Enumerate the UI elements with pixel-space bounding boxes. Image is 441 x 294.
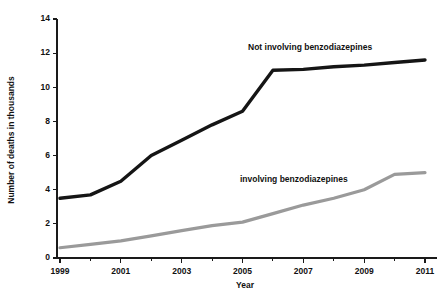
y-axis-tick-label: 12 (41, 47, 51, 57)
y-axis-tick-label: 6 (45, 150, 50, 160)
y-axis-title: Number of deaths in thousands (6, 76, 16, 204)
series-label-involving-benzodiazepines: involving benzodiazepines (240, 174, 348, 184)
y-axis-tick-label: 0 (45, 252, 50, 262)
x-axis-tick-label: 2003 (172, 266, 191, 276)
x-axis-tick-label: 2001 (111, 266, 130, 276)
x-axis-tick-label: 2011 (416, 266, 435, 276)
line-chart: 02468101214 1999200120032005200720092011… (0, 0, 441, 294)
x-axis-tick-label: 2005 (233, 266, 252, 276)
y-axis-tick-label: 8 (45, 116, 50, 126)
y-axis-ticks (53, 19, 57, 258)
x-axis-tick-label: 2007 (294, 266, 313, 276)
chart-container: 02468101214 1999200120032005200720092011… (0, 0, 441, 294)
x-axis-major-ticks (60, 258, 425, 263)
y-axis-tick-label: 10 (41, 82, 51, 92)
x-axis-tick-labels: 1999200120032005200720092011 (51, 266, 435, 276)
y-axis-tick-label: 2 (45, 218, 50, 228)
y-axis-tick-label: 4 (45, 184, 50, 194)
y-axis-tick-label: 14 (41, 13, 51, 23)
series-label-not-involving-benzodiazepines: Not involving benzodiazepines (248, 42, 372, 52)
x-axis-tick-label: 2009 (355, 266, 374, 276)
x-axis-title: Year (236, 280, 255, 290)
x-axis-tick-label: 1999 (51, 266, 70, 276)
y-axis-tick-labels: 02468101214 (41, 13, 51, 262)
